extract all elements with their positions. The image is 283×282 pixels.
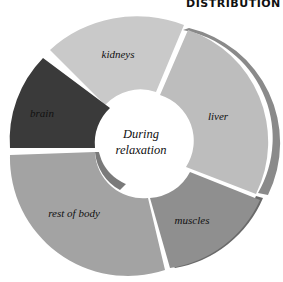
- label-rest-of-body: rest of body: [48, 207, 100, 219]
- center-label-line1: During: [116, 126, 167, 142]
- label-kidneys: kidneys: [102, 48, 135, 60]
- center-label: During relaxation: [116, 126, 167, 158]
- label-brain: brain: [30, 107, 54, 119]
- label-muscles: muscles: [175, 214, 210, 226]
- label-liver: liver: [208, 110, 228, 122]
- center-label-line2: relaxation: [116, 142, 167, 158]
